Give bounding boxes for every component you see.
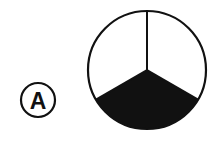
shaded-sector [96, 70, 198, 129]
pie-circle [88, 11, 206, 129]
option-label-a: A [21, 83, 55, 117]
fraction-diagram: A [0, 0, 221, 149]
label-letter: A [30, 88, 47, 114]
